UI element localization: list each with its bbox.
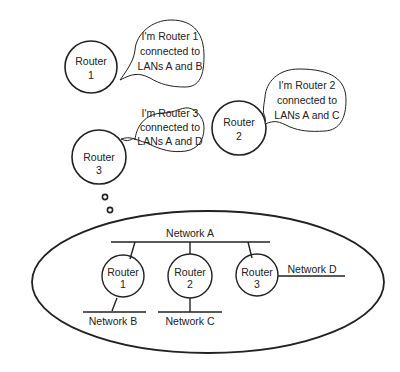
link-r1-b: [112, 298, 117, 311]
network-router-1-number: 1: [120, 278, 126, 290]
bubble-text-r3-line1: I'm Router 3: [142, 107, 199, 119]
router-1-label: Router: [75, 55, 107, 67]
network-c-label: Network C: [165, 315, 214, 327]
network-router-2-number: 2: [187, 278, 193, 290]
network-router-3-label: Router: [241, 266, 273, 278]
thought-dot-1: [102, 194, 107, 199]
bubble-text-r3-line2: connected to: [140, 121, 200, 133]
bubble-text-r1-line2: connected to: [140, 45, 200, 57]
network-router-1-label: Router: [107, 266, 139, 278]
network-a-label: Network A: [166, 227, 214, 239]
router-1-number: 1: [88, 69, 94, 81]
network-router-2-label: Router: [174, 266, 206, 278]
thought-dot-2: [107, 207, 112, 212]
router-3-label: Router: [83, 151, 115, 163]
router-2-node: [212, 101, 266, 155]
bubble-text-r2-line1: I'm Router 2: [279, 79, 336, 91]
bubble-text-r1-line1: I'm Router 1: [142, 30, 199, 42]
router-1-node: [65, 41, 117, 93]
bubble-text-r2-line2: connected to: [277, 94, 337, 106]
network-router-3-number: 3: [254, 278, 260, 290]
router-2-label: Router: [223, 116, 255, 128]
bubble-text-r3-line3: LANs A and D: [137, 135, 203, 147]
router-diagram: I'm Router 1 connected to LANs A and B I…: [0, 0, 400, 372]
network-b-label: Network B: [89, 315, 137, 327]
bubble-text-r1-line3: LANs A and B: [138, 60, 203, 72]
bubble-text-r2-line3: LANs A and C: [274, 109, 340, 121]
router-3-number: 3: [96, 164, 102, 176]
network-d-label: Network D: [287, 263, 336, 275]
router-2-number: 2: [236, 130, 242, 142]
